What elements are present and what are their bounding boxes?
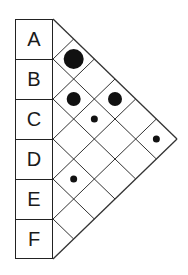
grid-line-down: [53, 59, 156, 159]
grid-line-up: [53, 79, 115, 139]
pair-dot-b-d: [91, 116, 98, 123]
pairwise-grid: [0, 0, 188, 275]
pair-dot-a-f: [153, 136, 160, 143]
grid-line-down: [53, 219, 74, 239]
pair-dot-d-e: [70, 176, 77, 183]
grid-line-down: [53, 139, 115, 199]
pair-dot-a-b: [64, 49, 84, 69]
pair-dot-b-c: [67, 92, 81, 106]
triangle-matrix-diagram: A B C D E F: [0, 0, 188, 275]
grid-line-up: [53, 119, 156, 219]
pair-dot-a-d: [108, 92, 122, 106]
